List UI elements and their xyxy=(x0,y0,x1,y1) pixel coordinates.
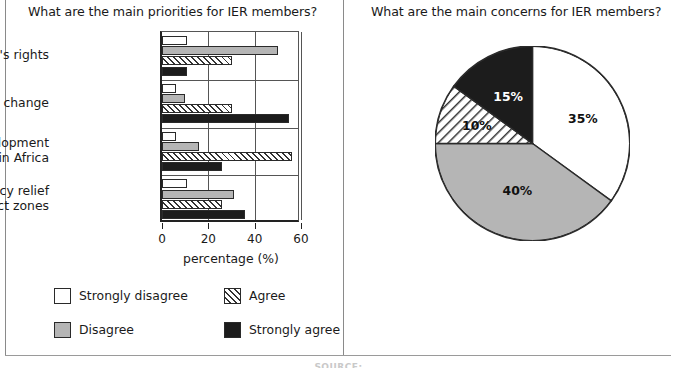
pie-slices xyxy=(435,46,630,241)
pie-slice-label: 35% xyxy=(568,110,598,125)
category-label: Climate change xyxy=(0,95,49,110)
x-tick-20 xyxy=(208,223,209,229)
bar-chart-plot-area: 0204060percentage (%) xyxy=(160,31,299,222)
x-tick-label-20: 20 xyxy=(201,232,216,246)
x-tick-label-40: 40 xyxy=(247,232,262,246)
legend-item[interactable]: Strongly agree xyxy=(224,322,340,338)
x-tick-label-60: 60 xyxy=(293,232,308,246)
bar xyxy=(162,46,278,55)
pie-slice-label: 40% xyxy=(503,182,533,197)
black-square-icon xyxy=(224,322,241,338)
figure-source-caption: SOURCE: xyxy=(0,362,677,368)
left-panel: What are the main priorities for IER mem… xyxy=(6,0,343,356)
category-label: Women's rights xyxy=(0,47,49,62)
bar xyxy=(162,114,289,123)
legend-item[interactable]: Agree xyxy=(224,288,285,304)
bar xyxy=(162,200,222,209)
pie-chart: 35%40%10%15% xyxy=(344,0,677,270)
bar xyxy=(162,56,232,65)
bar xyxy=(162,152,292,161)
white-square-icon xyxy=(54,288,71,304)
category-label: Underdevelopment in Africa xyxy=(0,135,49,165)
gray-square-icon xyxy=(54,322,71,338)
gridline-horizontal-2 xyxy=(162,128,298,129)
legend-item-label: Disagree xyxy=(79,324,134,336)
bar xyxy=(162,132,176,141)
pie-slice-label: 10% xyxy=(462,118,492,133)
x-axis-title: percentage (%) xyxy=(183,251,279,266)
bar xyxy=(162,84,176,93)
pie-slice-label: 15% xyxy=(493,88,523,103)
legend-item[interactable]: Disagree xyxy=(54,322,134,338)
bar xyxy=(162,179,187,188)
bar xyxy=(162,36,187,45)
gridline-vertical-60 xyxy=(301,32,302,220)
bar-chart: 0204060percentage (%) Women's rightsClim… xyxy=(6,0,343,270)
legend-item-label: Agree xyxy=(249,290,285,302)
gridline-vertical-40 xyxy=(255,32,256,220)
category-label: Emergency relief in conflict zones xyxy=(0,183,49,213)
bar xyxy=(162,142,199,151)
legend-item-label: Strongly agree xyxy=(249,324,340,336)
figure-page: What are the main priorities for IER mem… xyxy=(0,0,677,374)
bar xyxy=(162,210,245,219)
right-panel: What are the main concerns for IER membe… xyxy=(344,0,677,356)
legend-item-label: Strongly disagree xyxy=(79,290,188,302)
x-tick-0 xyxy=(162,223,163,229)
x-tick-60 xyxy=(301,223,302,229)
x-tick-label-0: 0 xyxy=(158,232,166,246)
gridline-horizontal-3 xyxy=(162,175,298,176)
bar xyxy=(162,190,234,199)
bar xyxy=(162,94,185,103)
bar xyxy=(162,162,222,171)
legend-item[interactable]: Strongly disagree xyxy=(54,288,188,304)
bar xyxy=(162,67,187,76)
x-tick-40 xyxy=(255,223,256,229)
hatched-square-icon xyxy=(224,288,241,304)
gridline-horizontal-1 xyxy=(162,80,298,81)
pie-chart-canvas: 35%40%10%15% xyxy=(435,46,630,241)
bar xyxy=(162,104,232,113)
